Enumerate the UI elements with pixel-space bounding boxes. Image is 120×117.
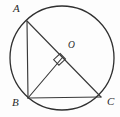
center-label-o: O [68,41,75,51]
vertex-label-a: A [13,3,20,14]
vertex-label-c: C [107,96,114,107]
segment-bo [28,58,62,98]
geometry-diagram: A B C O [0,0,120,117]
segment-bc [28,97,101,98]
vertex-label-b: B [12,97,19,108]
segment-ab [27,21,28,98]
